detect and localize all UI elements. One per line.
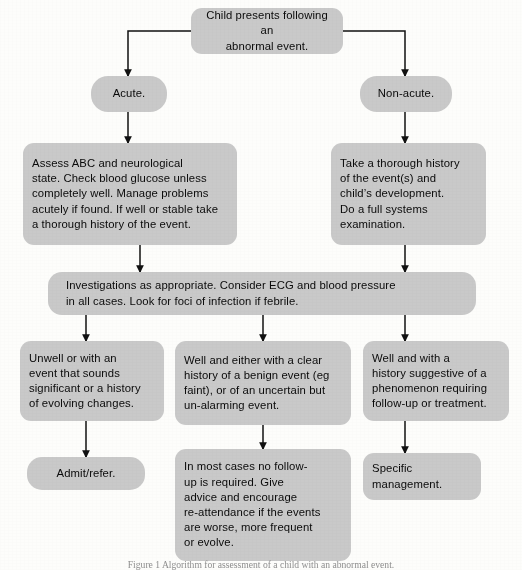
- node-branch-well-benign[interactable]: Well and either with a clear history of …: [175, 341, 351, 425]
- node-non-acute-label: Non-acute.: [369, 86, 443, 101]
- node-investigations[interactable]: Investigations as appropriate. Consider …: [48, 272, 476, 315]
- node-outcome-specific-label: Specific management.: [372, 461, 472, 491]
- figure-caption: Figure 1 Algorithm for assessment of a c…: [0, 559, 522, 570]
- node-branch-unwell-label: Unwell or with an event that sounds sign…: [29, 351, 155, 412]
- node-branch-well-phenomenon[interactable]: Well and with a history suggestive of a …: [363, 341, 509, 421]
- node-non-acute[interactable]: Non-acute.: [360, 76, 452, 112]
- node-acute[interactable]: Acute.: [91, 76, 167, 112]
- node-investigations-label: Investigations as appropriate. Consider …: [66, 278, 467, 308]
- node-acute-assessment[interactable]: Assess ABC and neurological state. Check…: [23, 143, 237, 245]
- node-outcome-admit[interactable]: Admit/refer.: [27, 457, 145, 490]
- node-branch-well-benign-label: Well and either with a clear history of …: [184, 353, 342, 414]
- node-non-acute-history[interactable]: Take a thorough history of the event(s) …: [331, 143, 486, 245]
- node-outcome-specific[interactable]: Specific management.: [363, 453, 481, 500]
- node-outcome-admit-label: Admit/refer.: [36, 466, 136, 481]
- node-acute-assessment-label: Assess ABC and neurological state. Check…: [32, 156, 228, 232]
- node-outcome-no-followup-label: In most cases no follow- up is required.…: [184, 459, 342, 550]
- node-non-acute-history-label: Take a thorough history of the event(s) …: [340, 156, 477, 232]
- node-acute-label: Acute.: [100, 86, 158, 101]
- connector-root-to-nonacute: [343, 31, 405, 76]
- node-branch-well-phenomenon-label: Well and with a history suggestive of a …: [372, 351, 500, 412]
- node-branch-unwell[interactable]: Unwell or with an event that sounds sign…: [20, 341, 164, 421]
- node-outcome-no-followup[interactable]: In most cases no follow- up is required.…: [175, 449, 351, 561]
- node-root[interactable]: Child presents following an abnormal eve…: [191, 8, 343, 54]
- node-root-label: Child presents following an abnormal eve…: [200, 8, 334, 54]
- flowchart-canvas: Child presents following an abnormal eve…: [0, 0, 522, 570]
- connector-root-to-acute: [128, 31, 191, 76]
